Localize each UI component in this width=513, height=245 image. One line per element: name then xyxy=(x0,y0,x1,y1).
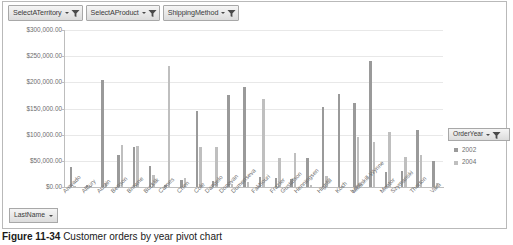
chevron-down-icon xyxy=(49,215,53,217)
x-axis-label-slot: Fakhouri xyxy=(254,189,270,229)
bar-group xyxy=(270,30,286,187)
bar-group xyxy=(301,30,317,187)
x-axis-label-slot: Austin xyxy=(97,189,113,229)
bar-group xyxy=(254,30,270,187)
bar-series-container xyxy=(65,30,443,187)
x-axis-label-slot: Gustafson xyxy=(286,189,302,229)
x-axis-label-slot: Vara xyxy=(427,189,443,229)
figure-caption: Figure 11-34 Customer orders by year piv… xyxy=(2,231,511,243)
bar-2004[interactable] xyxy=(247,182,250,187)
bar-group xyxy=(238,30,254,187)
bar-group xyxy=(81,30,97,187)
bar-2002[interactable] xyxy=(322,107,325,187)
x-axis-label-slot: Dangelo xyxy=(207,189,223,229)
bar-2004[interactable] xyxy=(168,66,171,187)
filter-funnel-icon xyxy=(492,126,501,144)
x-axis-label-slot: Thorton xyxy=(412,189,428,229)
bar-2002[interactable] xyxy=(338,94,341,187)
field-button-label: LastName xyxy=(14,212,45,219)
x-axis-label-slot: Henningsen xyxy=(301,189,317,229)
y-axis-tick-label: $0.00 xyxy=(46,184,62,190)
y-axis-tick-label: $200,000.00 xyxy=(26,79,62,85)
filter-button-select-a-product[interactable]: SelectAProduct xyxy=(86,5,160,21)
bar-2002[interactable] xyxy=(101,80,104,187)
bar-group xyxy=(175,30,191,187)
legend-swatch xyxy=(454,161,458,165)
bar-group xyxy=(427,30,443,187)
x-axis-label-slot: Chen xyxy=(175,189,191,229)
y-axis-tick-label: $150,000.00 xyxy=(26,106,62,112)
legend-item-label: 2002 xyxy=(462,147,476,153)
bar-2002[interactable] xyxy=(243,87,246,187)
filter-funnel-icon xyxy=(71,4,80,22)
y-axis-tick-label: $250,000.00 xyxy=(26,53,62,59)
bar-2002[interactable] xyxy=(353,103,356,187)
bar-group xyxy=(412,30,428,187)
bar-2002[interactable] xyxy=(227,95,230,187)
bar-group xyxy=(112,30,128,187)
filter-button-shipping-method[interactable]: ShippingMethod xyxy=(163,5,240,21)
y-axis-tick-mark xyxy=(62,109,65,110)
x-axis-category-labels: ArevadoAlburyAustinBensonBrowneBucklikCa… xyxy=(65,189,443,229)
legend-title: OrderYear xyxy=(453,131,483,138)
legend-filter-button-order-year[interactable]: OrderYear xyxy=(448,128,510,141)
x-axis-label-slot: Arevado xyxy=(65,189,81,229)
chart-plot xyxy=(65,30,443,187)
y-axis-tick-label: $50,000.00 xyxy=(30,158,62,164)
bar-group xyxy=(349,30,365,187)
y-axis-tick-mark xyxy=(62,135,65,136)
legend-item-2004[interactable]: 2004 xyxy=(454,159,510,165)
field-button-lastname[interactable]: LastName xyxy=(9,208,58,223)
x-axis-label-slot: McAskill-Wynne xyxy=(364,189,380,229)
x-axis-label-slot: Mentor xyxy=(380,189,396,229)
filter-label: SelectATerritory xyxy=(13,9,62,16)
figure-caption-text: Customer orders by year pivot chart xyxy=(60,231,222,242)
bar-group xyxy=(333,30,349,187)
y-axis-tick-mark xyxy=(62,82,65,83)
bar-group xyxy=(65,30,81,187)
legend: OrderYear 2002 2004 xyxy=(448,128,510,166)
x-axis-label-slot: Szymanski xyxy=(396,189,412,229)
bar-group xyxy=(207,30,223,187)
bar-group xyxy=(317,30,333,187)
pivot-chart-screenshot: SelectATerritory SelectAProduct Shipping… xyxy=(0,0,513,245)
legend-item-label: 2004 xyxy=(462,159,476,165)
filter-funnel-icon xyxy=(148,4,157,22)
bar-2002[interactable] xyxy=(196,111,199,187)
chevron-down-icon xyxy=(65,12,69,14)
legend-swatch xyxy=(454,148,458,152)
y-axis-tick-mark xyxy=(62,161,65,162)
x-axis-label-slot: Bucklik xyxy=(144,189,160,229)
x-axis-label-slot: Frazier xyxy=(270,189,286,229)
bar-group xyxy=(223,30,239,187)
bar-group xyxy=(286,30,302,187)
chevron-down-icon xyxy=(486,134,490,136)
x-axis-label-slot: Carnes xyxy=(160,189,176,229)
x-axis-label-slot: Highfill xyxy=(317,189,333,229)
y-axis-tick-mark xyxy=(62,56,65,57)
filter-button-select-a-territory[interactable]: SelectATerritory xyxy=(8,5,83,21)
plot-area: $0.00$50,000.00$100,000.00$150,000.00$20… xyxy=(3,21,506,230)
y-axis-tick-label: $100,000.00 xyxy=(26,132,62,138)
x-axis-label-slot: Benson xyxy=(112,189,128,229)
bar-group xyxy=(97,30,113,187)
bar-2004[interactable] xyxy=(310,185,313,187)
y-axis-tick-label: $300,000.00 xyxy=(26,27,62,33)
x-axis-label-slot: Donovan xyxy=(223,189,239,229)
y-axis-tick-mark xyxy=(62,30,65,31)
bar-group xyxy=(160,30,176,187)
bar-group xyxy=(191,30,207,187)
chevron-down-icon xyxy=(142,12,146,14)
filter-funnel-icon xyxy=(227,4,236,22)
figure-number: Figure 11-34 xyxy=(2,231,60,242)
x-axis-label-slot: Albury xyxy=(81,189,97,229)
x-axis-label-slot: Browne xyxy=(128,189,144,229)
filter-label: SelectAProduct xyxy=(91,9,139,16)
filter-label: ShippingMethod xyxy=(168,9,219,16)
x-axis-label-slot: Long xyxy=(349,189,365,229)
chevron-down-icon xyxy=(221,12,225,14)
legend-item-2002[interactable]: 2002 xyxy=(454,147,510,153)
y-axis-tick-mark xyxy=(62,187,65,188)
filter-button-bar: SelectATerritory SelectAProduct Shipping… xyxy=(3,2,506,21)
bar-group xyxy=(128,30,144,187)
